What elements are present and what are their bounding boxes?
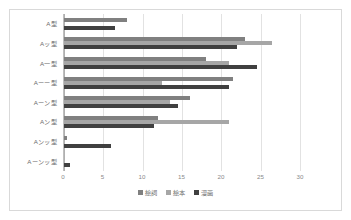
category-label: Aーン型 bbox=[9, 93, 61, 113]
bar bbox=[64, 18, 127, 22]
axis-tick-label: 10 bbox=[139, 173, 146, 180]
bar bbox=[64, 124, 154, 128]
chart-container: A型 Aッ型 A一型 Aーー型 Aーン型 Aン型 Aンッ型 Aーンッ型 0510… bbox=[0, 0, 351, 220]
chart-legend: 絵詞絵本漫画 bbox=[0, 188, 351, 197]
legend-item[interactable]: 絵本 bbox=[166, 188, 185, 197]
category-label: Aーンッ型 bbox=[9, 151, 61, 171]
axis-tick-label: 0 bbox=[61, 173, 64, 180]
category-label: A一型 bbox=[9, 53, 61, 73]
bar-group bbox=[64, 73, 300, 93]
legend-swatch-icon bbox=[194, 190, 199, 195]
bar-group bbox=[64, 34, 300, 54]
legend-swatch-icon bbox=[138, 190, 143, 195]
bar bbox=[64, 144, 111, 148]
category-label: Aン型 bbox=[9, 112, 61, 132]
bar-group bbox=[64, 132, 300, 152]
legend-item[interactable]: 絵詞 bbox=[138, 188, 157, 197]
axis-tick-label: 30 bbox=[297, 173, 304, 180]
category-label: Aッ型 bbox=[9, 34, 61, 54]
legend-label: 絵本 bbox=[173, 188, 185, 197]
legend-swatch-icon bbox=[166, 190, 171, 195]
bar bbox=[64, 26, 115, 30]
axis-tick-label: 15 bbox=[178, 173, 185, 180]
bar bbox=[64, 85, 229, 89]
plot-area bbox=[63, 14, 300, 171]
legend-item[interactable]: 漫画 bbox=[194, 188, 213, 197]
legend-label: 漫画 bbox=[201, 188, 213, 197]
bar-rows bbox=[64, 14, 300, 171]
axis-tick-label: 5 bbox=[101, 173, 104, 180]
legend-label: 絵詞 bbox=[145, 188, 157, 197]
bar bbox=[64, 136, 67, 140]
bar-group bbox=[64, 151, 300, 171]
category-axis-labels: A型 Aッ型 A一型 Aーー型 Aーン型 Aン型 Aンッ型 Aーンッ型 bbox=[9, 14, 61, 171]
bar-group bbox=[64, 93, 300, 113]
category-label: Aンッ型 bbox=[9, 132, 61, 152]
bar-group bbox=[64, 112, 300, 132]
axis-tick-label: 25 bbox=[257, 173, 264, 180]
category-label: A型 bbox=[9, 14, 61, 34]
category-label: Aーー型 bbox=[9, 73, 61, 93]
bar-group bbox=[64, 14, 300, 34]
bar-group bbox=[64, 53, 300, 73]
bar bbox=[64, 104, 178, 108]
value-axis-labels: 051015202530 bbox=[63, 173, 300, 185]
bar bbox=[64, 163, 70, 167]
bar bbox=[64, 45, 237, 49]
axis-tick-label: 20 bbox=[218, 173, 225, 180]
bar bbox=[64, 65, 257, 69]
